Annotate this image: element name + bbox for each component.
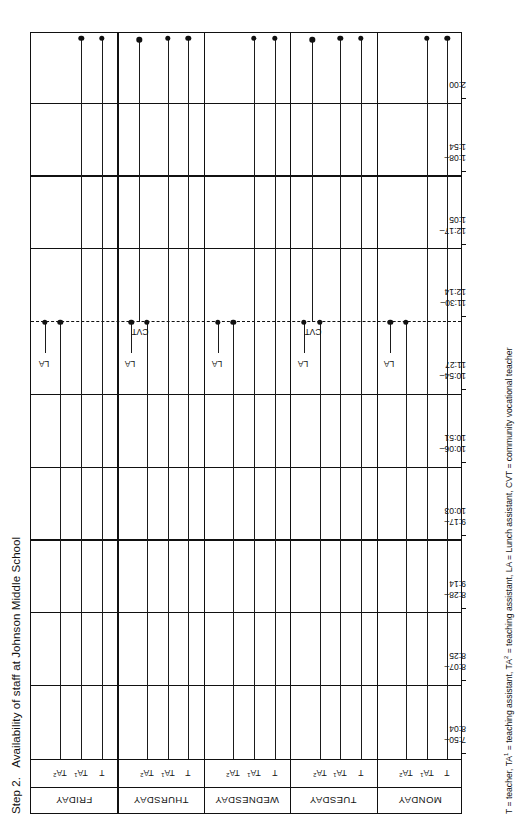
- time-tick-mark: [462, 753, 466, 754]
- role-label-t: T: [186, 769, 191, 779]
- time-end: 12:14: [452, 287, 466, 298]
- time-tick-label: 2:00: [452, 79, 466, 90]
- time-end: 10:51: [452, 433, 466, 444]
- time-start: 11:30–: [452, 298, 466, 309]
- time-end: 9:14: [452, 579, 466, 590]
- day-divider-line: [204, 33, 205, 759]
- bar-label-la: LA: [211, 359, 221, 369]
- role-label-ta2: TA2: [226, 768, 240, 779]
- availability-bar: [45, 322, 46, 353]
- figure-step-label: Step 2.: [10, 777, 22, 814]
- day-divider-line: [204, 760, 205, 787]
- day-divider-line: [204, 788, 205, 813]
- bar-end-marker: [403, 320, 408, 325]
- figure-title-text: Availability of staff at Johnson Middle …: [10, 537, 22, 768]
- time-tick-mark: [462, 316, 466, 317]
- time-start: 12:17–: [452, 225, 466, 236]
- legend-la: LA = Lunch assistant,: [504, 490, 514, 572]
- time-tick-mark: [462, 171, 466, 172]
- time-end: 11:27: [452, 360, 466, 371]
- role-label-t: T: [445, 769, 450, 779]
- time-tick-mark: [462, 608, 466, 609]
- availability-bar: [60, 322, 61, 759]
- time-tick-label: 10:54–11:27: [452, 360, 466, 381]
- role-label-ta1: TA1: [334, 768, 348, 779]
- availability-figure: Step 2.Availability of staff at Johnson …: [0, 0, 521, 832]
- time-end: 1:54: [452, 142, 466, 153]
- period-divider-line: [31, 467, 461, 468]
- time-tick-mark: [462, 98, 466, 99]
- availability-bar: [320, 322, 321, 759]
- role-label-ta1: TA1: [247, 768, 261, 779]
- legend-t: T = teacher,: [504, 769, 514, 814]
- time-tick-mark: [462, 389, 466, 390]
- time-tick-label: 11:30–12:14: [452, 287, 466, 308]
- availability-bar: [312, 40, 313, 322]
- availability-bar: [390, 322, 391, 353]
- figure-title: Step 2.Availability of staff at Johnson …: [10, 537, 22, 814]
- bar-label-cvt: CVT: [305, 327, 322, 337]
- availability-bar: [188, 38, 189, 759]
- day-label-wednesday: WEDNESDAY: [215, 795, 279, 806]
- time-tick-label: 8:07–8:25: [452, 651, 466, 672]
- time-end: 1:05: [452, 215, 466, 226]
- bar-end-marker: [310, 37, 315, 42]
- availability-bar: [427, 38, 428, 759]
- bar-end-marker: [388, 320, 393, 325]
- availability-bar: [361, 38, 362, 759]
- day-divider-line: [290, 788, 291, 813]
- day-label-column: MONDAYTUESDAYWEDNESDAYTHURSDAYFRIDAY: [30, 788, 462, 814]
- period-divider-line: [31, 103, 461, 104]
- day-divider-line: [290, 33, 291, 759]
- day-label-friday: FRIDAY: [56, 795, 93, 806]
- availability-bar: [233, 322, 234, 759]
- bar-label-cvt: CVT: [132, 327, 149, 337]
- bar-end-marker: [338, 36, 343, 41]
- time-start: 1:08–: [452, 152, 466, 163]
- time-start: 10:54–: [452, 371, 466, 382]
- bar-end-marker: [272, 36, 277, 41]
- bar-end-marker: [251, 36, 256, 41]
- legend-cvt: CVT = community vocational teacher: [504, 347, 514, 488]
- period-divider-line: [31, 539, 461, 540]
- day-label-monday: MONDAY: [398, 795, 441, 806]
- period-divider-line: [31, 685, 461, 686]
- time-tick-mark: [462, 462, 466, 463]
- time-tick-label: 8:28–9:14: [452, 579, 466, 600]
- role-label-t: T: [358, 769, 363, 779]
- legend: T = teacher, TA1 = teaching assistant, T…: [503, 347, 514, 814]
- period-divider-line: [31, 612, 461, 613]
- period-divider-line: [31, 394, 461, 395]
- bar-end-marker: [129, 320, 134, 325]
- bar-end-marker: [58, 320, 63, 325]
- period-divider-line: [31, 248, 461, 249]
- time-end: 10:03: [452, 506, 466, 517]
- time-tick-label: 7:50–8:04: [452, 724, 466, 745]
- legend-ta2: TA2 = teaching assistant,: [504, 575, 514, 670]
- role-label-ta2: TA2: [140, 768, 154, 779]
- legend-ta1: TA1 = teaching assistant,: [504, 672, 514, 767]
- availability-grid: LALACVTLALACVTLA: [30, 32, 462, 760]
- time-tick-label: 1:08–1:54: [452, 142, 466, 163]
- bar-end-marker: [42, 320, 47, 325]
- bar-end-marker: [230, 320, 235, 325]
- bar-end-marker: [424, 36, 429, 41]
- availability-bar: [102, 38, 103, 759]
- bar-end-marker: [99, 36, 104, 41]
- bar-end-marker: [317, 320, 322, 325]
- bar-label-la: LA: [298, 359, 308, 369]
- figure-stage: Step 2.Availability of staff at Johnson …: [0, 0, 521, 832]
- role-label-ta2: TA2: [399, 768, 413, 779]
- bar-end-marker: [78, 36, 83, 41]
- role-label-ta2: TA2: [54, 768, 68, 779]
- time-tick-label: 12:17–1:05: [452, 215, 466, 236]
- bar-label-la: LA: [125, 359, 135, 369]
- bar-end-marker: [215, 320, 220, 325]
- time-tick-mark: [462, 244, 466, 245]
- time-tick-label: 9:17–10:03: [452, 506, 466, 527]
- time-start: 8:07–: [452, 662, 466, 673]
- bar-label-la: LA: [384, 359, 394, 369]
- bar-end-marker: [137, 37, 142, 42]
- availability-bar: [218, 322, 219, 353]
- time-tick-mark: [462, 535, 466, 536]
